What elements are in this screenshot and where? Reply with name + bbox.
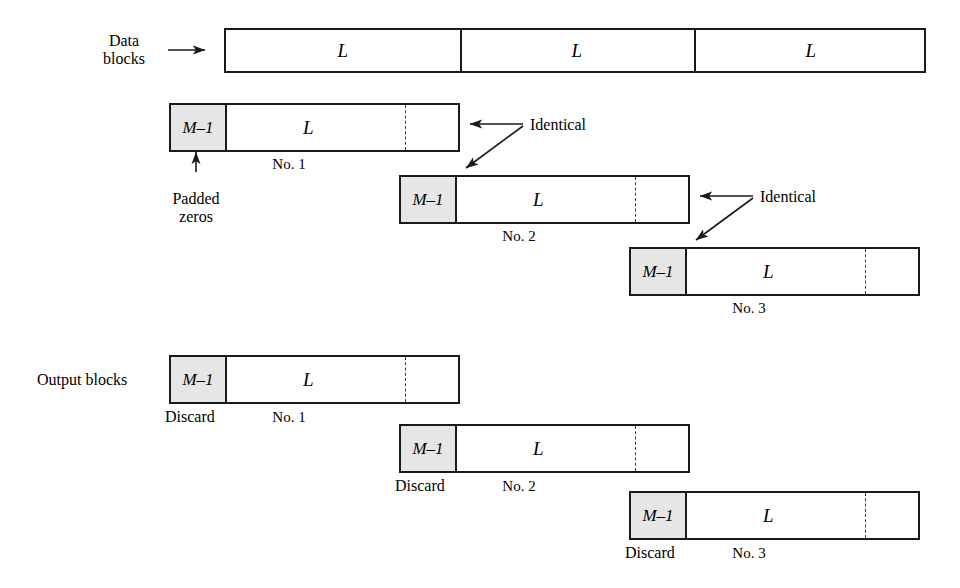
output-block-2-number: No. 2 bbox=[479, 478, 559, 495]
input-block-1-number: No. 1 bbox=[249, 156, 329, 173]
input-block-1-prefix: M–1 bbox=[171, 105, 227, 150]
identical-label-1: Identical bbox=[530, 116, 586, 134]
input-block-2-prefix: M–1 bbox=[401, 177, 457, 222]
output-block-1-prefix: M–1 bbox=[171, 357, 227, 402]
input-block-2-body: L bbox=[457, 177, 692, 222]
data-blocks-label-line2: blocks bbox=[84, 50, 164, 68]
data-block-segment-2-label: L bbox=[571, 41, 582, 60]
data-blocks-label: Data blocks bbox=[84, 32, 164, 69]
input-block-1-body: L bbox=[227, 105, 462, 150]
padded-zeros-label-line2: zeros bbox=[156, 208, 236, 226]
input-block-3-prefix: M–1 bbox=[631, 249, 687, 294]
data-block-segment-3: L bbox=[694, 30, 928, 71]
padded-zeros-label: Padded zeros bbox=[156, 190, 236, 227]
output-block-2-body-label: L bbox=[533, 439, 544, 458]
input-block-1-body-label: L bbox=[303, 118, 314, 137]
output-block-2-prefix: M–1 bbox=[401, 426, 457, 471]
input-block-3-dashed-marker bbox=[865, 249, 866, 294]
input-block-2-number: No. 2 bbox=[479, 228, 559, 245]
identical-connector-2 bbox=[696, 196, 753, 240]
data-block-segment-1-label: L bbox=[337, 41, 348, 60]
output-block-2-prefix-label: M–1 bbox=[412, 440, 443, 457]
input-block-3-number: No. 3 bbox=[709, 300, 789, 317]
output-block-2: M–1 L bbox=[399, 424, 690, 473]
input-block-2-prefix-label: M–1 bbox=[412, 191, 443, 208]
output-block-3: M–1 L bbox=[629, 491, 920, 540]
output-block-1-prefix-label: M–1 bbox=[182, 371, 213, 388]
output-block-1-discard-label: Discard bbox=[165, 408, 215, 426]
output-block-3-body: L bbox=[687, 493, 922, 538]
output-block-3-prefix: M–1 bbox=[631, 493, 687, 538]
data-block-segment-3-label: L bbox=[805, 41, 816, 60]
output-block-2-discard-label: Discard bbox=[395, 477, 445, 495]
output-block-2-dashed-marker bbox=[635, 426, 636, 471]
input-block-3-body: L bbox=[687, 249, 922, 294]
output-block-1-dashed-marker bbox=[405, 357, 406, 402]
input-block-2-body-label: L bbox=[533, 190, 544, 209]
data-block-segment-1: L bbox=[226, 30, 460, 71]
input-block-3-body-label: L bbox=[763, 262, 774, 281]
output-block-3-prefix-label: M–1 bbox=[642, 507, 673, 524]
data-blocks-label-line1: Data bbox=[84, 32, 164, 50]
output-block-3-discard-label: Discard bbox=[625, 544, 675, 562]
input-block-1: M–1 L bbox=[169, 103, 460, 152]
output-block-2-body: L bbox=[457, 426, 692, 471]
identical-connector-1 bbox=[466, 124, 523, 168]
figure-canvas: Data blocks L L L M–1 L No. 1 Padded zer… bbox=[0, 0, 960, 588]
output-block-1: M–1 L bbox=[169, 355, 460, 404]
output-blocks-label: Output blocks bbox=[37, 371, 127, 389]
output-block-3-body-label: L bbox=[763, 506, 774, 525]
data-blocks-row: L L L bbox=[224, 28, 926, 73]
input-block-1-dashed-marker bbox=[405, 105, 406, 150]
output-block-3-dashed-marker bbox=[865, 493, 866, 538]
identical-label-2: Identical bbox=[760, 188, 816, 206]
padded-zeros-label-line1: Padded bbox=[156, 190, 236, 208]
input-block-2-dashed-marker bbox=[635, 177, 636, 222]
data-block-segment-2: L bbox=[460, 30, 694, 71]
input-block-3: M–1 L bbox=[629, 247, 920, 296]
output-block-1-body: L bbox=[227, 357, 462, 402]
output-block-1-body-label: L bbox=[303, 370, 314, 389]
output-block-1-number: No. 1 bbox=[249, 409, 329, 426]
input-block-3-prefix-label: M–1 bbox=[642, 263, 673, 280]
input-block-2: M–1 L bbox=[399, 175, 690, 224]
output-block-3-number: No. 3 bbox=[709, 545, 789, 562]
input-block-1-prefix-label: M–1 bbox=[182, 119, 213, 136]
